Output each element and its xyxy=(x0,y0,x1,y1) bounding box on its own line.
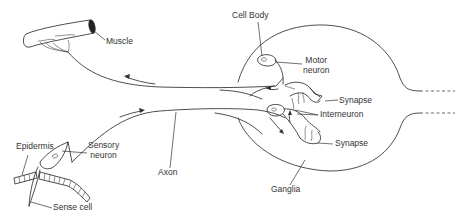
label-epidermis: Epidermis xyxy=(16,142,54,152)
motor-direction-arrow-icon xyxy=(124,74,130,79)
reflex-arc-diagram xyxy=(0,0,463,221)
motor-neuron-cell-body xyxy=(258,55,295,90)
epidermis xyxy=(14,172,90,202)
label-interneuron: Interneuron xyxy=(320,110,363,120)
label-synapse-bottom: Synapse xyxy=(335,139,368,149)
motor-axon xyxy=(68,52,275,99)
label-sense-cell: Sense cell xyxy=(53,203,92,213)
label-motor-neuron-line2: neuron xyxy=(303,66,329,76)
label-axon: Axon xyxy=(158,168,177,178)
interneuron-arrow-icon xyxy=(288,110,292,115)
label-muscle: Muscle xyxy=(106,37,133,47)
label-motor-neuron: Motor neuron xyxy=(303,56,329,76)
label-sensory-neuron-line2: neuron xyxy=(88,151,119,161)
muscle-illustration xyxy=(23,19,96,52)
label-ganglia: Ganglia xyxy=(271,185,300,195)
label-sensory-neuron: Sensory neuron xyxy=(88,141,119,161)
sensory-direction-arrow-icon xyxy=(139,108,145,113)
interneuron-cluster xyxy=(267,82,322,144)
label-synapse-top: Synapse xyxy=(339,96,372,106)
label-cell-body: Cell Body xyxy=(232,11,268,21)
